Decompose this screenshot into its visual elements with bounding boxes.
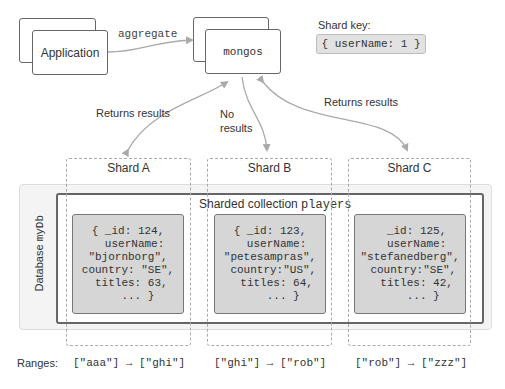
database-label: Database myDb (33, 222, 46, 292)
document-shard-c: _id: 125, userName: "stefanedberg", coun… (354, 214, 466, 314)
shard-b-title: Shard B (207, 161, 332, 175)
range-shard-b: ["ghi"] → ["rob"] (214, 357, 326, 369)
aggregate-arrow (108, 40, 192, 52)
range-shard-a: ["aaa"] → ["ghi"] (73, 357, 185, 369)
shard-a-result-label: Returns results (96, 107, 170, 119)
shard-b-result-label-2: results (220, 122, 252, 134)
range-shard-c: ["rob"] → ["zzz"] (355, 357, 467, 369)
document-shard-b: { _id: 123, userName: "petesampras", cou… (214, 214, 326, 314)
shard-b-result-label-1: No (220, 108, 234, 120)
shard-c-result-label: Returns results (324, 96, 398, 108)
arrow-shard-b (242, 77, 267, 150)
shard-c-title: Shard C (348, 161, 471, 175)
arrow-shard-c (263, 82, 407, 150)
database-name: myDb (34, 215, 46, 241)
document-shard-a: { _id: 124, userName: "bjornborg", count… (72, 214, 184, 314)
shard-a-title: Shard A (66, 161, 191, 175)
database-label-prefix: Database (33, 241, 45, 291)
ranges-label: Ranges: (17, 357, 58, 369)
